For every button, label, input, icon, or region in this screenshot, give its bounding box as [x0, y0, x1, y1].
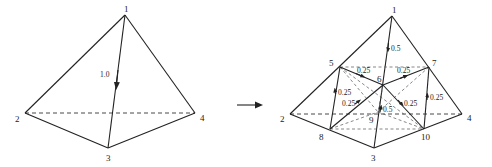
vertex-label-6: 6 [377, 74, 382, 84]
vertex-label-4: 4 [467, 113, 472, 123]
flow-arrow-icon [335, 90, 336, 94]
edge-1-2 [290, 16, 392, 114]
edge-1-2 [25, 15, 125, 113]
original-tetrahedron: 1.0 1 2 3 4 [15, 4, 205, 163]
edge-weight-label: 0.25 [342, 99, 355, 108]
vertex-label-2: 2 [15, 114, 20, 124]
edge-weight-label: 0.5 [391, 44, 401, 53]
vertex-label-9: 9 [369, 115, 374, 125]
hidden-edge-9-10 [378, 112, 424, 129]
edge-3-4 [374, 114, 462, 148]
hidden-edge-5-10 [340, 67, 424, 129]
flow-arrow-icon [400, 76, 406, 79]
edge-weight-label: 0.25 [357, 66, 370, 75]
edge-weight-label: 1.0 [100, 70, 110, 79]
tetrahedron-refinement-diagram: 1.0 1 2 3 4 [0, 0, 492, 167]
vertex-label-10: 10 [421, 132, 431, 142]
vertex-label-4: 4 [200, 113, 205, 123]
vertex-label-2: 2 [280, 114, 285, 124]
edge-weight-label: 0.25 [338, 88, 351, 97]
vertex-label-5: 5 [329, 58, 334, 68]
flow-arrow-icon [355, 101, 359, 104]
edge-weight-label: 0.5 [383, 105, 393, 114]
edge-5-8 [330, 67, 340, 129]
vertex-label-3: 3 [106, 153, 111, 163]
edge-3-4 [108, 113, 195, 148]
vertex-label-3: 3 [371, 153, 376, 163]
flow-arrow-icon [380, 107, 381, 112]
vertex-label-8: 8 [319, 132, 324, 142]
vertex-label-7: 7 [432, 58, 437, 68]
flow-arrow-icon [117, 70, 119, 86]
flow-arrow-icon [388, 43, 389, 50]
edge-weight-label: 0.25 [397, 66, 410, 75]
edge-1-4 [125, 15, 195, 113]
refine-arrow-icon [237, 102, 263, 109]
vertex-label-1: 1 [392, 5, 397, 15]
refined-tetrahedron: 0.5 0.25 0.25 0.25 0.25 0.5 0.25 0.25 1 … [280, 5, 472, 163]
vertex-label-1: 1 [124, 4, 129, 14]
edge-7-10 [424, 67, 429, 129]
edge-2-3 [25, 113, 108, 148]
edge-weight-label: 0.25 [430, 93, 443, 102]
edge-weight-label: 0.25 [404, 99, 417, 108]
